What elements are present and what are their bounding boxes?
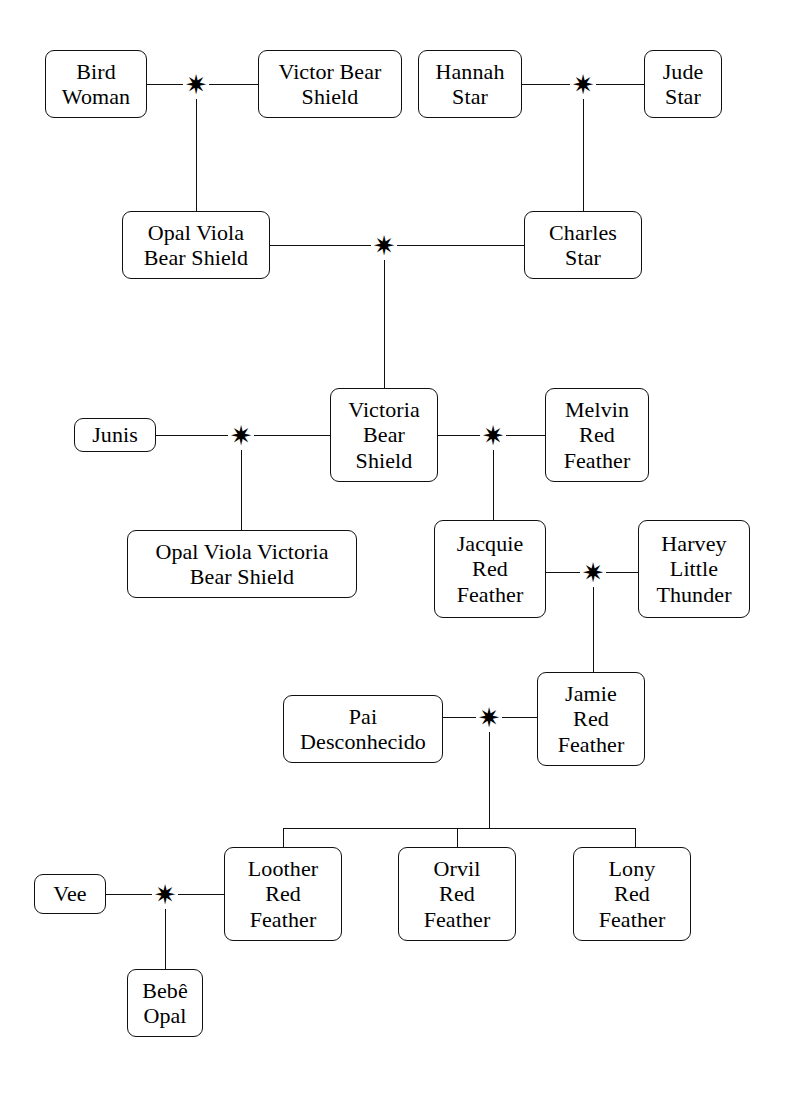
connector-h-union-to-harvey [606,572,638,573]
connector-h-union-to-jamie [502,717,537,718]
person-node-victor-bear-shield[interactable]: Victor Bear Shield [258,50,402,118]
union-victoria-melvin-red-feather-star-icon: ✷ [478,420,508,450]
connector-v-jacquie-union-down [593,587,594,672]
person-node-victoria-bs[interactable]: Victoria Bear Shield [330,388,438,482]
connector-h-union-to-charles [397,245,524,246]
union-junis-victoria-bear-shield-star-icon: ✷ [226,420,256,450]
union-hannah-star-jude-star-star-icon: ✷ [568,69,598,99]
connector-v-hannah-union-down [583,99,584,211]
person-node-opal-viola-bs[interactable]: Opal Viola Bear Shield [122,211,270,279]
connector-h-sibling-bracket [283,828,635,829]
connector-h-union-to-melvin [506,435,545,436]
person-node-junis[interactable]: Junis [74,418,156,452]
connector-h-union-to-loother [178,894,224,895]
connector-h-vee-to-union [106,894,152,895]
connector-h-jacquie-to-union [546,572,580,573]
connector-v-drop-loother [283,828,284,847]
person-node-bebe-opal[interactable]: Bebê Opal [127,969,203,1037]
connector-h-union-to-jude [596,84,644,85]
person-node-jude-star[interactable]: Jude Star [644,50,722,118]
connector-v-bird-union-down [196,99,197,211]
person-node-vee[interactable]: Vee [34,874,106,914]
connector-v-victoria-union-down [493,450,494,520]
connector-v-junis-union-down [241,450,242,530]
connector-h-union-to-victor [209,84,258,85]
connector-h-victoria-to-union [438,435,480,436]
connector-v-drop-orvil [457,828,458,847]
union-bird-woman-victor-bear-shield-star-icon: ✷ [181,69,211,99]
person-node-harvey-lt[interactable]: Harvey Little Thunder [638,520,750,618]
union-jacquie-harvey-little-thunder-star-icon: ✷ [578,557,608,587]
connector-v-drop-lony [635,828,636,847]
connector-v-vee-union-down [165,909,166,969]
connector-h-pai-to-union [443,717,476,718]
union-pai-desconhecido-jamie-star-icon: ✷ [474,702,504,732]
person-node-jamie-rf[interactable]: Jamie Red Feather [537,672,645,766]
connector-v-pai-union-down [489,732,490,828]
connector-v-opal-union-down [384,260,385,388]
union-vee-loother-red-feather-star-icon: ✷ [150,879,180,909]
person-node-bird-woman[interactable]: Bird Woman [45,50,147,118]
connector-h-hannah-to-union [522,84,570,85]
person-node-pai-desconhecido[interactable]: Pai Desconhecido [283,695,443,763]
connector-h-union-to-victoria [254,435,330,436]
connector-h-opal-to-union [270,245,371,246]
union-opal-viola-charles-star-star-icon: ✷ [369,230,399,260]
person-node-melvin-rf[interactable]: Melvin Red Feather [545,388,649,482]
connector-h-bird-to-union [147,84,183,85]
person-node-loother-rf[interactable]: Loother Red Feather [224,847,342,941]
person-node-orvil-rf[interactable]: Orvil Red Feather [398,847,516,941]
person-node-jacquie-rf[interactable]: Jacquie Red Feather [434,520,546,618]
person-node-lony-rf[interactable]: Lony Red Feather [573,847,691,941]
family-tree-diagram: ✷✷✷✷✷✷✷✷ Bird WomanVictor Bear ShieldHan… [0,0,790,1111]
connector-h-junis-to-union [156,435,228,436]
person-node-opal-viola-v-bs[interactable]: Opal Viola Victoria Bear Shield [127,530,357,598]
person-node-hannah-star[interactable]: Hannah Star [418,50,522,118]
person-node-charles-star[interactable]: Charles Star [524,211,642,279]
